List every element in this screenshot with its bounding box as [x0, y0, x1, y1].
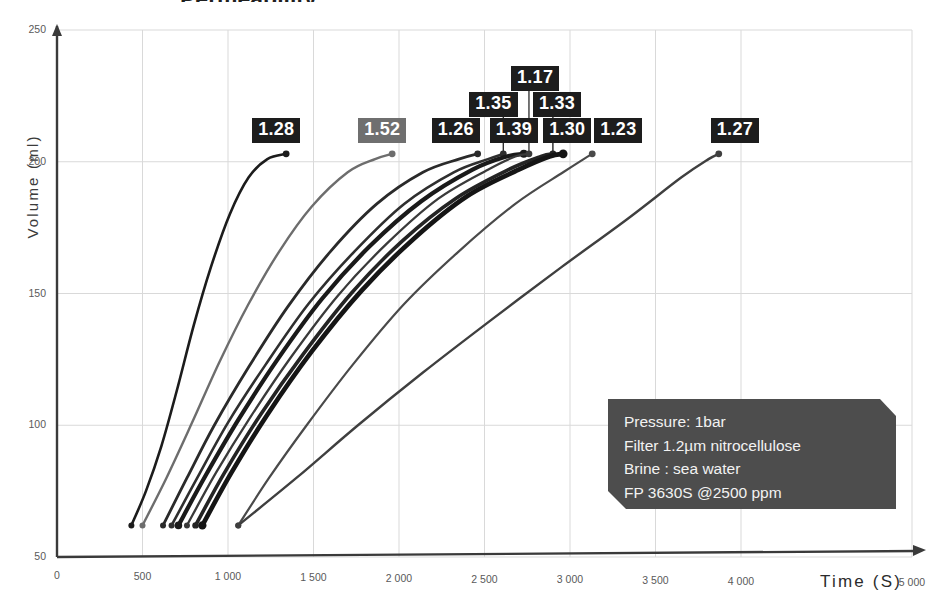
data-label-1-30: 1.30: [543, 118, 591, 143]
y-axis-title: Volume (ml): [24, 107, 41, 267]
data-label-1-27: 1.27: [711, 118, 759, 143]
y-tick-label: 50: [2, 550, 46, 562]
data-label-1-39: 1.39: [490, 118, 538, 143]
series-line-1-17: [187, 154, 529, 526]
info-box: Pressure: 1bar Filter 1.2µm nitrocellulo…: [608, 399, 896, 509]
x-tick-label: 5 000: [882, 576, 928, 588]
plot-area: [0, 0, 928, 615]
series-start-marker: [160, 522, 166, 528]
x-tick-label: 2 500: [455, 573, 515, 585]
x-axis-line: [57, 551, 916, 557]
y-tick-label: 100: [2, 418, 46, 430]
x-tick-label: 1 500: [284, 571, 344, 583]
info-line-brine: Brine : sea water: [624, 457, 801, 481]
data-label-1-28: 1.28: [252, 118, 300, 143]
series-start-marker: [198, 521, 206, 529]
series-start-marker: [128, 522, 134, 528]
data-label-1-17: 1.17: [511, 66, 559, 91]
y-tick-label: 200: [2, 155, 46, 167]
series-start-marker: [140, 522, 146, 528]
series-end-marker: [715, 150, 722, 157]
data-label-1-35: 1.35: [469, 92, 517, 117]
x-tick-label: 3 500: [626, 574, 686, 586]
info-line-filter: Filter 1.2µm nitrocellulose: [624, 434, 801, 458]
series-end-marker: [559, 149, 568, 158]
series-start-marker: [169, 522, 175, 528]
series-end-marker: [283, 150, 290, 157]
data-label-1-26: 1.26: [432, 118, 480, 143]
y-tick-label: 150: [2, 287, 46, 299]
x-tick-label: 1 000: [198, 570, 258, 582]
data-label-1-23: 1.23: [594, 118, 642, 143]
series-start-marker: [192, 522, 198, 528]
series-start-marker: [235, 522, 241, 528]
series-start-marker: [184, 522, 190, 528]
x-tick-label: 2 000: [369, 572, 429, 584]
permeability-chart: Permeability Volume (ml) Time (S) 501001…: [0, 0, 928, 615]
x-tick-label: 4 000: [711, 575, 771, 587]
info-line-pressure: Pressure: 1bar: [624, 410, 801, 434]
info-line-chemical: FP 3630S @2500 ppm: [624, 481, 801, 505]
data-label-1-33: 1.33: [533, 92, 581, 117]
x-tick-label: 500: [113, 570, 173, 582]
series-line-1-35: [172, 154, 504, 526]
series-end-marker: [389, 150, 396, 157]
series-end-marker: [589, 150, 596, 157]
series-start-marker: [175, 522, 183, 530]
y-tick-label: 250: [2, 23, 46, 35]
info-box-text: Pressure: 1bar Filter 1.2µm nitrocellulo…: [624, 410, 801, 504]
x-tick-label: 3 000: [540, 573, 600, 585]
series-end-marker: [474, 150, 481, 157]
x-axis-arrow: [913, 545, 926, 556]
data-label-1-52: 1.52: [358, 118, 406, 143]
x-tick-label: 0: [27, 569, 87, 581]
